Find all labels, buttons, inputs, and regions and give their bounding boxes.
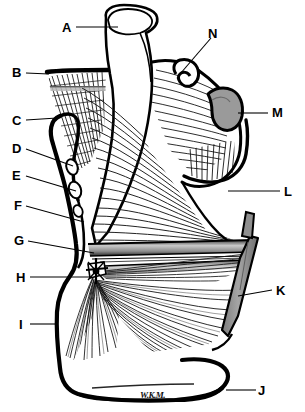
- label-H[interactable]: H: [16, 271, 25, 284]
- label-J[interactable]: J: [258, 384, 265, 397]
- iliac-crest-edge: [47, 70, 108, 72]
- anatomy-figure: [0, 0, 305, 412]
- label-D[interactable]: D: [12, 142, 21, 155]
- artist-signature: W.K.M.: [140, 390, 165, 400]
- label-L[interactable]: L: [284, 185, 292, 198]
- label-I[interactable]: I: [19, 318, 23, 331]
- label-N[interactable]: N: [208, 27, 217, 40]
- label-C[interactable]: C: [12, 114, 21, 127]
- label-B[interactable]: B: [12, 66, 21, 79]
- label-F[interactable]: F: [14, 199, 22, 212]
- label-A[interactable]: A: [62, 21, 71, 34]
- label-M[interactable]: M: [272, 106, 283, 119]
- label-G[interactable]: G: [14, 234, 24, 247]
- illustration-canvas: A B C D E F G H I J K L M N W.K.M.: [0, 0, 305, 412]
- label-K[interactable]: K: [276, 284, 285, 297]
- label-E[interactable]: E: [12, 169, 21, 182]
